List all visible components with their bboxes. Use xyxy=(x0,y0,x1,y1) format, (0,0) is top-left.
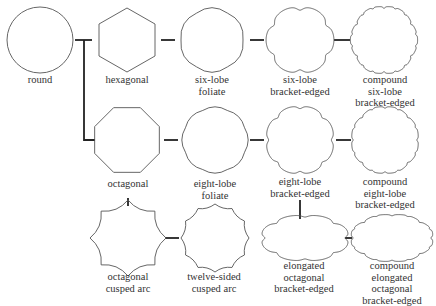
label-six-lobe-foliate: six-lobe foliate xyxy=(195,74,229,97)
label-compound-eight-lobe-bracket-edged: compound eight-lobe bracket-edged xyxy=(355,176,414,211)
elongated-octagonal-bracket-edged-shape xyxy=(262,216,348,261)
octagonal-cusped-arc-shape xyxy=(90,200,166,276)
label-elongated-octagonal-bracket-edged: elongated octagonal bracket-edged xyxy=(274,260,333,295)
label-eight-lobe-foliate: eight-lobe foliate xyxy=(194,178,237,201)
compound-elongated-octagonal-bracket-edged-shape xyxy=(351,215,432,262)
compound-six-lobe-bracket-edged-shape xyxy=(350,7,417,74)
label-round: round xyxy=(28,74,53,86)
label-hexagonal: hexagonal xyxy=(105,74,148,86)
connectors xyxy=(75,40,352,238)
compound-eight-lobe-bracket-edged-shape xyxy=(352,107,418,173)
label-octagonal: octagonal xyxy=(108,178,149,190)
twelve-sided-cusped-arc-shape xyxy=(181,204,249,272)
label-twelve-sided-cusped-arc: twelve-sided cusped arc xyxy=(187,271,241,294)
label-six-lobe-bracket-edged: six-lobe bracket-edged xyxy=(270,74,329,97)
label-compound-elongated-octagonal-bracket-edged: compound elongated octagonal bracket-edg… xyxy=(362,260,421,306)
connector-round-octagonal xyxy=(84,40,95,140)
hexagonal-shape xyxy=(99,8,155,72)
six-lobe-bracket-edged-shape xyxy=(266,8,334,73)
octagonal-shape xyxy=(95,108,160,173)
label-octagonal-cusped-arc: octagonal cusped arc xyxy=(106,271,151,294)
eight-lobe-bracket-edged-shape xyxy=(267,107,334,174)
label-compound-six-lobe-bracket-edged: compound six-lobe bracket-edged xyxy=(355,74,414,109)
label-eight-lobe-bracket-edged: eight-lobe bracket-edged xyxy=(270,176,329,199)
eight-lobe-foliate-shape xyxy=(182,107,248,173)
round-shape xyxy=(7,7,73,73)
six-lobe-foliate-shape xyxy=(181,8,243,73)
